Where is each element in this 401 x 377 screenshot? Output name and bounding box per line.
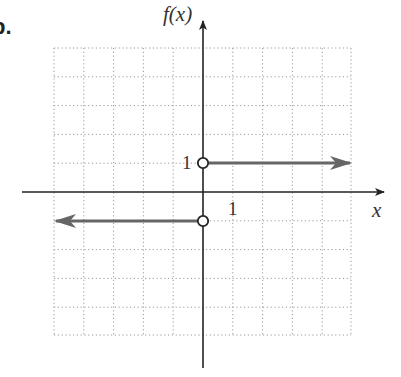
open-circle-upper (198, 158, 208, 168)
x-axis-label: x (372, 198, 381, 223)
y-axis-label: f(x) (163, 2, 192, 27)
x-tick-label-1: 1 (228, 198, 238, 220)
open-circle-lower (198, 216, 208, 226)
y-tick-label-1: 1 (182, 152, 192, 174)
step-function-graph: b. (0, 0, 401, 377)
coordinate-plane (0, 0, 401, 377)
